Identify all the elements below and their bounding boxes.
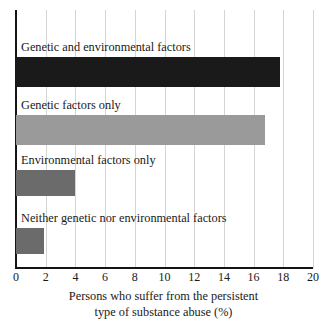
bar-chart: Genetic and environmental factorsGenetic… xyxy=(0,0,327,333)
x-axis-title: Persons who suffer from the persistent t… xyxy=(0,288,327,320)
x-tick-label-14: 14 xyxy=(218,270,230,284)
bar-2 xyxy=(16,170,75,196)
gridline-20 xyxy=(313,10,314,268)
bar-1 xyxy=(16,115,265,145)
bar-0 xyxy=(16,57,280,87)
x-tick-label-6: 6 xyxy=(102,270,108,284)
category-label-3: Neither genetic nor environmental factor… xyxy=(21,211,227,225)
gridline-18 xyxy=(283,10,284,268)
x-tick-label-4: 4 xyxy=(72,270,78,284)
x-axis-title-line-1: Persons who suffer from the persistent xyxy=(0,288,327,304)
category-label-1: Genetic factors only xyxy=(21,98,121,112)
category-label-0: Genetic and environmental factors xyxy=(21,40,191,54)
x-tick-label-16: 16 xyxy=(248,270,260,284)
category-label-2: Environmental factors only xyxy=(21,153,156,167)
x-tick-label-18: 18 xyxy=(277,270,289,284)
x-axis-line xyxy=(15,267,313,269)
x-tick-label-2: 2 xyxy=(43,270,49,284)
x-tick-label-0: 0 xyxy=(13,270,19,284)
x-tick-label-10: 10 xyxy=(159,270,171,284)
x-tick-label-12: 12 xyxy=(188,270,200,284)
bar-3 xyxy=(16,228,44,254)
x-tick-label-20: 20 xyxy=(307,270,319,284)
x-axis-title-line-2: type of substance abuse (%) xyxy=(0,304,327,320)
x-tick-label-8: 8 xyxy=(132,270,138,284)
